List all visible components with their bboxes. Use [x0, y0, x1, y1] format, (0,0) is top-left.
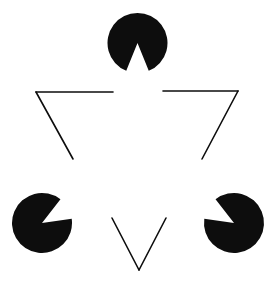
kanizsa-triangle-figure	[0, 0, 278, 283]
illusion-canvas	[0, 0, 278, 283]
